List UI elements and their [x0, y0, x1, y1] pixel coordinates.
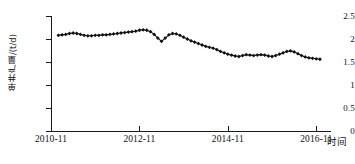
data-series-line	[51, 16, 331, 131]
series-marker	[219, 50, 223, 54]
series-marker	[307, 56, 311, 60]
series-marker	[182, 35, 186, 39]
series-marker	[64, 33, 68, 37]
y-axis-tick	[46, 131, 51, 132]
x-axis-line	[51, 131, 331, 132]
series-marker	[211, 46, 215, 50]
series-marker	[208, 45, 212, 49]
plot-area	[51, 16, 331, 131]
series-marker	[233, 54, 237, 58]
series-marker	[255, 53, 259, 57]
series-marker	[138, 28, 142, 32]
series-marker	[75, 32, 79, 36]
series-marker	[189, 39, 193, 43]
series-marker	[314, 57, 318, 61]
series-marker	[193, 40, 197, 44]
series-marker	[93, 33, 97, 37]
series-marker	[145, 28, 149, 32]
x-axis-tick-label: 2010-11	[31, 134, 71, 144]
series-marker	[86, 34, 90, 38]
series-marker	[185, 37, 189, 41]
series-marker	[311, 56, 315, 60]
series-marker	[215, 48, 219, 52]
series-marker	[60, 33, 64, 37]
series-marker	[226, 52, 230, 56]
series-marker	[248, 53, 252, 57]
series-line	[58, 30, 320, 59]
series-marker	[134, 29, 138, 33]
series-marker	[270, 55, 274, 59]
y-axis-title: 单井产量/(t/d)	[8, 34, 20, 91]
series-marker	[289, 49, 293, 53]
series-marker	[174, 32, 178, 36]
series-marker	[303, 55, 307, 59]
chart-figure: 单井产量/(t/d) 00.511.522.5 2010-112012-1120…	[0, 0, 355, 164]
series-marker	[101, 33, 105, 37]
series-marker	[281, 51, 285, 55]
series-marker	[274, 54, 278, 58]
series-marker	[108, 33, 112, 37]
series-marker	[178, 33, 182, 37]
x-axis-tick-label: 2014-11	[208, 134, 248, 144]
series-marker	[123, 31, 127, 35]
series-marker	[285, 50, 289, 54]
series-marker	[130, 30, 134, 34]
series-marker	[71, 31, 75, 35]
series-marker	[79, 33, 83, 37]
series-marker	[222, 51, 226, 55]
series-marker	[196, 42, 200, 46]
series-marker	[237, 55, 241, 59]
series-marker	[292, 50, 296, 54]
series-marker	[97, 33, 101, 37]
series-marker	[90, 34, 94, 38]
x-axis-title: 时间	[327, 134, 347, 148]
series-marker	[230, 53, 234, 57]
series-marker	[263, 53, 267, 57]
series-marker	[119, 31, 123, 35]
series-marker	[241, 54, 245, 58]
series-marker	[200, 43, 204, 47]
series-marker	[141, 28, 145, 32]
series-marker	[296, 52, 300, 56]
series-marker	[252, 54, 256, 58]
series-marker	[68, 32, 72, 36]
x-axis-tick-label: 2012-11	[119, 134, 159, 144]
series-marker	[126, 30, 130, 34]
series-marker	[204, 44, 208, 48]
series-marker	[112, 32, 116, 36]
series-marker	[171, 32, 175, 36]
series-marker	[318, 57, 322, 61]
series-marker	[115, 32, 119, 36]
series-marker	[259, 53, 263, 57]
series-marker	[244, 53, 248, 57]
series-marker	[278, 52, 282, 56]
series-marker	[300, 54, 304, 58]
series-marker	[266, 54, 270, 58]
series-marker	[56, 33, 60, 37]
series-marker	[82, 33, 86, 37]
series-marker	[104, 33, 108, 37]
